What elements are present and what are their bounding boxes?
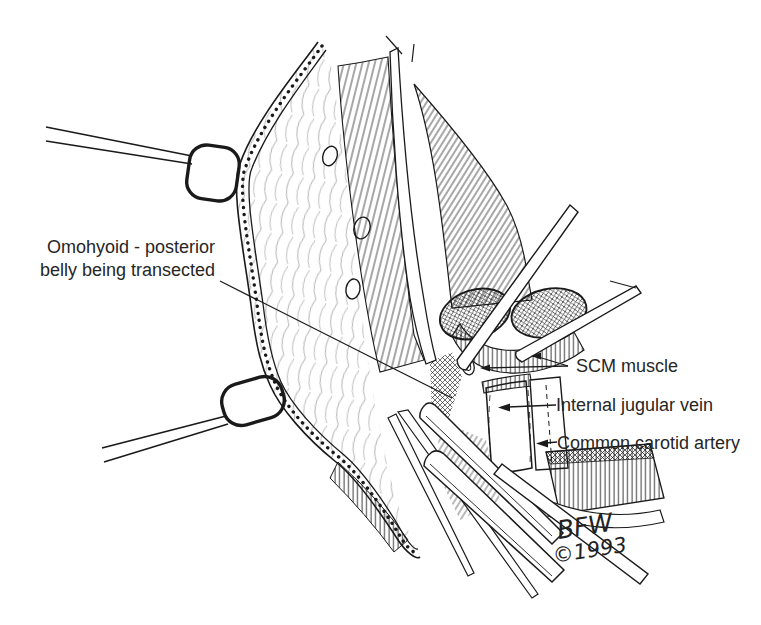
scissors-open-blade-line	[610, 281, 636, 288]
retractor-shaft-line	[46, 127, 192, 156]
rake-retractor-lower	[102, 372, 289, 462]
medical-illustration: Omohyoid - posterior belly being transec…	[0, 0, 761, 625]
label-internal-jugular-vein: Internal jugular vein	[556, 395, 713, 415]
cord-branch	[412, 44, 414, 62]
illustration-canvas: Omohyoid - posterior belly being transec…	[0, 0, 761, 625]
label-omohyoid-line2: belly being transected	[40, 260, 215, 280]
internal-jugular-vein-vessel	[486, 381, 532, 474]
retractor-loop	[184, 143, 241, 203]
label-common-carotid-artery: Common carotid artery	[557, 433, 740, 453]
label-scm-muscle: SCM muscle	[576, 356, 678, 376]
scm-upper-belly	[414, 84, 532, 308]
label-omohyoid-line1: Omohyoid - posterior	[47, 237, 215, 257]
rake-retractor-upper	[46, 127, 242, 203]
retractor-shaft-line	[46, 141, 192, 164]
